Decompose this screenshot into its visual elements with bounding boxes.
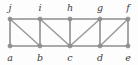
graph-edge-c-g — [70, 19, 100, 46]
graph-vertex-b — [38, 44, 42, 48]
graph-vertex-g — [98, 17, 102, 21]
edge-layer — [10, 19, 128, 46]
graph-vertex-label-j: j — [7, 2, 12, 13]
graph-vertex-label-h: h — [67, 2, 73, 13]
graph-vertex-e — [126, 44, 130, 48]
graph-vertex-d — [98, 44, 102, 48]
graph-figure: abcdefghij — [0, 0, 138, 65]
graph-vertex-label-e: e — [125, 52, 131, 63]
graph-vertex-h — [68, 17, 72, 21]
graph-vertex-label-c: c — [67, 52, 73, 63]
graph-vertex-label-g: g — [97, 2, 103, 13]
graph-vertex-c — [68, 44, 72, 48]
graph-edge-i-c — [40, 19, 70, 46]
diagram-canvas: abcdefghij — [0, 0, 138, 65]
graph-vertex-a — [8, 44, 12, 48]
graph-vertex-label-f: f — [125, 2, 131, 13]
graph-vertex-j — [8, 17, 12, 21]
vertex-layer — [8, 17, 130, 48]
graph-vertex-label-b: b — [37, 52, 43, 63]
graph-vertex-f — [126, 17, 130, 21]
graph-vertex-label-a: a — [7, 52, 13, 63]
graph-vertex-label-d: d — [97, 52, 103, 63]
graph-edge-j-b — [10, 19, 40, 46]
graph-edge-d-f — [100, 19, 128, 46]
graph-vertex-label-i: i — [38, 2, 41, 13]
graph-vertex-i — [38, 17, 42, 21]
